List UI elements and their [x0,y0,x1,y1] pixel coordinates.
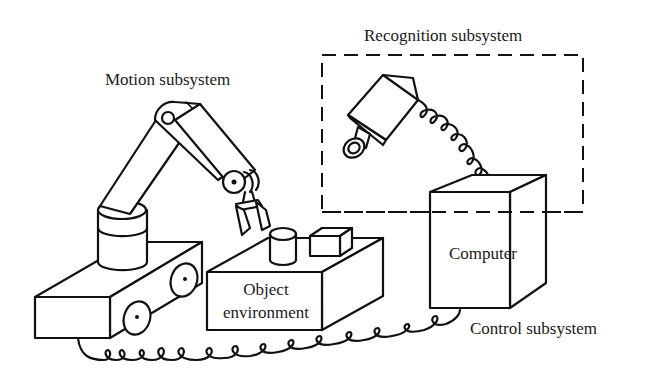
motion-subsystem-label: Motion subsystem [105,70,230,89]
object-environment: Object environment [207,228,383,330]
camera-cable [418,100,488,176]
cylinder-object [270,228,296,265]
object-label-line2: environment [223,303,309,322]
block-object [310,228,352,256]
gripper [236,192,270,235]
camera-icon [340,75,418,162]
recognition-subsystem-label: Recognition subsystem [364,26,522,45]
computer-label: Computer [449,244,517,263]
wrist-joint [223,170,259,193]
object-label-line1: Object [243,280,289,299]
computer-side [510,175,546,308]
control-subsystem-label: Control subsystem [470,319,597,338]
cart-front [35,297,110,338]
computer: Computer [430,175,546,308]
robot-system-diagram: Recognition subsystem Computer Control s… [0,0,651,380]
